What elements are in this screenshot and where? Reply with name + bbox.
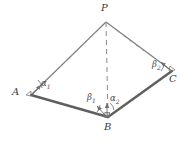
geometry-figure: P A B C α1 α2 β1 β2: [0, 0, 192, 151]
angle-arrow-alpha1: [33, 85, 41, 94]
edge-PA-dashed-overlay: [60, 32, 96, 67]
angle-label-beta1: β1: [87, 93, 96, 104]
angle-label-beta2: β2: [152, 60, 161, 71]
vertex-label-C: C: [169, 74, 177, 84]
vertex-label-A: A: [12, 87, 19, 97]
vertex-label-B: B: [104, 122, 111, 132]
edge-AB: [31, 95, 108, 117]
vertex-marker-C: [169, 66, 175, 71]
edge-PB-dashed: [106, 22, 108, 117]
vertex-label-P: P: [101, 3, 108, 13]
edge-PC: [106, 22, 172, 71]
angle-label-alpha1: α1: [41, 79, 51, 90]
angle-label-alpha2: α2: [110, 94, 120, 105]
angle-label-beta2-sub: 2: [157, 64, 161, 71]
angle-label-beta1-sub: 1: [92, 97, 96, 104]
angle-label-alpha2-sub: 2: [116, 98, 120, 105]
figure-canvas: [0, 0, 192, 151]
angle-label-alpha1-sub: 1: [47, 83, 51, 90]
